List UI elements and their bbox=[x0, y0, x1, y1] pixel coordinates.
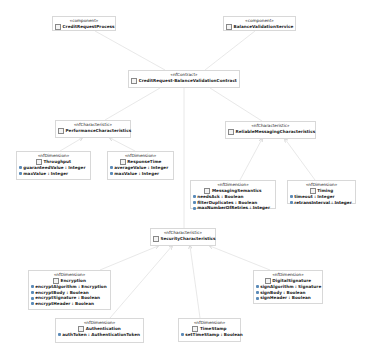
attribute-icon bbox=[31, 291, 34, 294]
class-icon bbox=[78, 326, 84, 332]
attribute-icon bbox=[110, 172, 113, 175]
class-icon bbox=[192, 326, 198, 332]
attribute-icon bbox=[256, 285, 259, 288]
nf-dimension-authentication[interactable]: «nfDimension» Authentication authToken :… bbox=[55, 318, 144, 343]
node-name: ReliableMessagingCharacteristics bbox=[236, 129, 316, 134]
attribute-row: signHeader : Boolean bbox=[256, 295, 320, 301]
attribute-icon bbox=[58, 333, 61, 336]
edge-contract-performance bbox=[105, 88, 160, 120]
node-name: Throughput bbox=[43, 159, 71, 164]
component-balance-validation-service[interactable]: «component» BalanceValidationService bbox=[223, 16, 296, 31]
attribute-icon bbox=[31, 285, 34, 288]
edge-process-contract bbox=[95, 31, 165, 70]
attribute-icon bbox=[256, 297, 259, 300]
class-icon bbox=[58, 128, 64, 134]
attribute-icon bbox=[193, 201, 196, 204]
attribute-row: encryptHeader : Boolean bbox=[31, 301, 108, 307]
node-name: MessagingSemantics bbox=[212, 188, 262, 193]
attribute-icon bbox=[193, 207, 196, 210]
attribute-icon bbox=[181, 333, 184, 336]
nf-characteristic-security[interactable]: «nfCharacteristic» SecurityCharacteristi… bbox=[150, 228, 216, 246]
attribute-icon bbox=[31, 297, 34, 300]
nf-dimension-response-time[interactable]: «nfDimension» ResponseTime averageValue … bbox=[107, 151, 174, 180]
class-icon bbox=[120, 159, 126, 165]
nf-dimension-digital-signature[interactable]: «nfDimension» DigitalSignature signAlgor… bbox=[253, 270, 323, 304]
nf-dimension-encryption[interactable]: «nfDimension» Encryption encryptAlgorith… bbox=[28, 270, 111, 310]
attribute-row: setTimeStamp : Boolean bbox=[181, 332, 238, 338]
nf-contract[interactable]: «nfContract» CreditRequest-BalanceValida… bbox=[128, 70, 240, 88]
nf-dimension-time-stamp[interactable]: «nfDimension» TimeStamp setTimeStamp : B… bbox=[178, 318, 241, 342]
nf-characteristic-performance[interactable]: «nfCharacteristic» PerformanceCharacteri… bbox=[55, 120, 131, 138]
class-icon bbox=[53, 278, 59, 284]
node-name: CreditRequestProcess bbox=[63, 24, 115, 29]
node-name: Timing bbox=[317, 188, 333, 193]
class-icon bbox=[265, 278, 271, 284]
attribute-icon bbox=[110, 166, 113, 169]
nf-dimension-messaging-semantics[interactable]: «nfDimension» MessagingSemantics needsAc… bbox=[190, 180, 276, 209]
class-icon bbox=[310, 188, 316, 194]
nf-dimension-throughput[interactable]: «nfDimension» Throughput guaranteedValue… bbox=[16, 151, 91, 180]
node-name: DigitalSignature bbox=[272, 278, 311, 283]
class-icon bbox=[226, 24, 232, 30]
attribute-icon bbox=[256, 291, 259, 294]
attribute-row: maxValue : Integer bbox=[110, 171, 171, 177]
class-icon bbox=[36, 159, 42, 165]
edge-contract-reliable bbox=[210, 88, 262, 121]
class-icon bbox=[228, 129, 234, 135]
attribute-icon bbox=[290, 195, 293, 198]
class-icon bbox=[55, 24, 61, 30]
node-name: Encryption bbox=[61, 278, 86, 283]
node-name: CreditRequest-BalanceValidationContract bbox=[139, 78, 237, 83]
class-icon bbox=[204, 188, 210, 194]
node-name: TimeStamp bbox=[200, 326, 227, 331]
node-name: PerformanceCharacteristics bbox=[66, 128, 132, 133]
attribute-row: maxValue : Integer bbox=[19, 171, 88, 177]
attribute-icon bbox=[19, 166, 22, 169]
node-name: BalanceValidationService bbox=[234, 24, 294, 29]
attribute-icon bbox=[193, 195, 196, 198]
nf-characteristic-reliable-messaging[interactable]: «nfCharacteristic» ReliableMessagingChar… bbox=[225, 121, 316, 139]
attribute-icon bbox=[290, 201, 293, 204]
diagram-canvas: «component» CreditRequestProcess «compon… bbox=[0, 0, 371, 354]
attribute-row: retransInterval : Integer bbox=[290, 200, 353, 206]
node-name: ResponseTime bbox=[127, 159, 161, 164]
attribute-row: authToken : AuthenticationToken bbox=[58, 332, 141, 338]
component-credit-request-process[interactable]: «component» CreditRequestProcess bbox=[52, 16, 116, 31]
edge-service-contract bbox=[205, 31, 255, 70]
class-icon bbox=[131, 78, 137, 84]
attribute-row: maxNumberOfRetries : Integer bbox=[193, 205, 273, 211]
attribute-icon bbox=[31, 302, 34, 305]
class-icon bbox=[153, 236, 159, 242]
node-name: Authentication bbox=[86, 326, 121, 331]
nf-dimension-timing[interactable]: «nfDimension» Timing timeout : Integer r… bbox=[287, 180, 356, 204]
attribute-icon bbox=[19, 172, 22, 175]
node-name: SecurityCharacteristics bbox=[161, 236, 216, 241]
